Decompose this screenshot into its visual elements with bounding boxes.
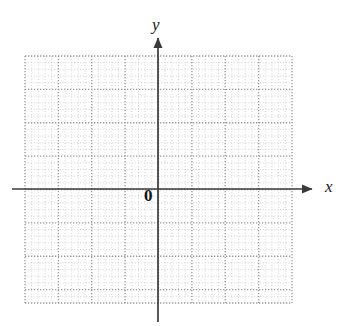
x-axis-label: x bbox=[325, 178, 333, 195]
coordinate-plane-figure: y x 0 bbox=[0, 0, 343, 326]
axes-group bbox=[12, 38, 312, 322]
coordinate-plane-svg bbox=[0, 0, 343, 326]
y-axis-label: y bbox=[152, 16, 160, 33]
origin-label: 0 bbox=[144, 187, 153, 204]
